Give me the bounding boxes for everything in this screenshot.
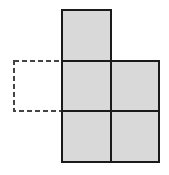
square-net-diagram [0, 0, 169, 175]
square-bottom-left [62, 111, 111, 162]
square-middle-right [111, 61, 159, 111]
square-top [62, 10, 111, 61]
missing-square-dashed-outline [14, 61, 62, 111]
square-middle-left [62, 61, 111, 111]
square-bottom-right [111, 111, 159, 162]
